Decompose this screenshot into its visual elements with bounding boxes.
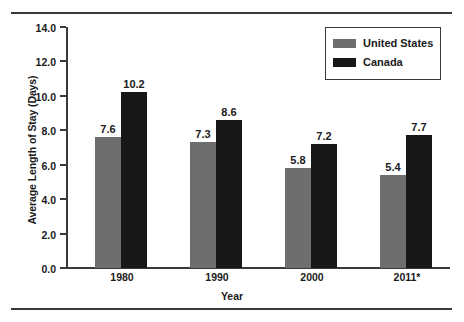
y-axis-tick: [60, 198, 66, 200]
bar-value-label: 7.3: [195, 129, 210, 140]
y-axis-tick-label: 12.0: [10, 57, 56, 67]
legend-swatch-icon-united-states: [333, 39, 356, 48]
bar-value-label: 7.6: [100, 124, 115, 135]
x-axis-tick-label: 2000: [272, 272, 352, 283]
y-axis-tick: [60, 129, 66, 131]
y-axis-tick-label: 0.0: [10, 264, 56, 274]
bar-canada[interactable]: 7.2: [311, 144, 337, 268]
bar-united-states[interactable]: 5.8: [285, 168, 311, 268]
legend-swatch-icon-canada: [333, 58, 356, 67]
y-axis-tick-label: 14.0: [10, 23, 56, 33]
legend-label-canada: Canada: [363, 57, 403, 68]
bar-value-label: 5.8: [290, 155, 305, 166]
y-axis-tick-label: 10.0: [10, 92, 56, 102]
bar-group: 7.610.2: [95, 27, 149, 268]
bar-group: 7.38.6: [190, 27, 244, 268]
y-axis-tick-label: 8.0: [10, 126, 56, 136]
y-axis-tick: [60, 267, 66, 269]
x-axis-title: Year: [0, 290, 464, 302]
bar-value-label: 8.6: [221, 107, 236, 118]
bar-united-states[interactable]: 5.4: [380, 175, 406, 268]
bar-value-label: 7.7: [411, 122, 426, 133]
x-axis-tick-label: 2011*: [367, 272, 447, 283]
y-axis-tick-label: 2.0: [10, 230, 56, 240]
y-axis-tick: [60, 95, 66, 97]
bar-value-label: 5.4: [385, 162, 400, 173]
bar-united-states[interactable]: 7.6: [95, 137, 121, 268]
legend-label-united-states: United States: [363, 38, 433, 49]
y-axis-tick: [60, 26, 66, 28]
bar-chart-figure: Average Length of Stay (Days) 0.02.04.06…: [0, 14, 464, 306]
y-axis-tick: [60, 60, 66, 62]
bar-canada[interactable]: 8.6: [216, 120, 242, 268]
legend-item-united-states[interactable]: United States: [333, 34, 433, 53]
x-axis-tick-label: 1980: [82, 272, 162, 283]
bottom-divider-rule: [11, 308, 452, 310]
bar-canada[interactable]: 10.2: [121, 92, 147, 268]
chart-legend: United States Canada: [325, 27, 441, 80]
legend-item-canada[interactable]: Canada: [333, 53, 433, 72]
y-axis-tick: [60, 233, 66, 235]
y-axis-tick: [60, 164, 66, 166]
bar-united-states[interactable]: 7.3: [190, 142, 216, 268]
x-axis-tick-label: 1990: [177, 272, 257, 283]
bar-value-label: 7.2: [316, 131, 331, 142]
y-axis-tick-label: 4.0: [10, 195, 56, 205]
bar-canada[interactable]: 7.7: [406, 135, 432, 268]
y-axis-tick-label: 6.0: [10, 161, 56, 171]
bar-value-label: 10.2: [123, 79, 144, 90]
